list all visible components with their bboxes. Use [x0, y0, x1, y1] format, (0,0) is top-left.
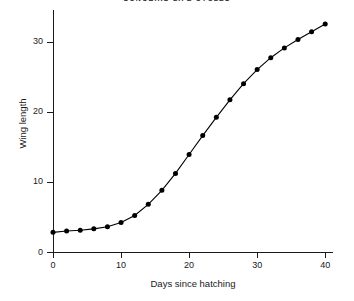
data-point — [187, 152, 192, 157]
data-point — [51, 230, 56, 235]
data-point — [323, 22, 328, 27]
data-point — [159, 188, 164, 193]
data-series-wing-length — [0, 0, 354, 301]
data-point — [78, 228, 83, 233]
data-point — [173, 171, 178, 176]
data-point — [255, 67, 260, 72]
data-point — [309, 29, 314, 34]
data-point — [282, 45, 287, 50]
data-point — [105, 224, 110, 229]
data-point — [146, 202, 151, 207]
data-point — [214, 115, 219, 120]
data-point — [227, 97, 232, 102]
data-point — [241, 81, 246, 86]
series-line — [53, 24, 325, 232]
data-point — [91, 226, 96, 231]
data-point — [132, 213, 137, 218]
data-point — [295, 37, 300, 42]
data-point — [119, 220, 124, 225]
chart-figure: SONGBIRD LIFE CYCLES 0102030 010203040 W… — [0, 0, 354, 301]
series-markers — [51, 22, 328, 235]
data-point — [200, 133, 205, 138]
data-point — [268, 55, 273, 60]
data-point — [64, 228, 69, 233]
